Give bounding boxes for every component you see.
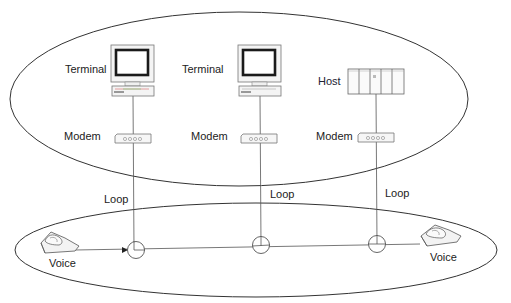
circle-junction-icon xyxy=(252,236,270,254)
connection-line-2 xyxy=(260,95,261,245)
modem-1-label: Modem xyxy=(64,131,101,142)
modem-icon xyxy=(241,134,277,143)
modem-icon xyxy=(358,133,394,142)
circle-junction-icon xyxy=(128,241,146,259)
loop-2-label: Loop xyxy=(270,189,294,200)
connection-line-3 xyxy=(376,94,377,244)
voice-left-label: Voice xyxy=(49,258,76,269)
circle-junction-icon xyxy=(368,235,386,253)
connection-line-1 xyxy=(133,95,134,250)
host-label: Host xyxy=(318,76,341,87)
monitor-icon xyxy=(238,45,281,96)
telephone-icon xyxy=(41,232,79,253)
upper-network-ellipse xyxy=(10,12,468,186)
terminal-2-label: Terminal xyxy=(182,64,224,75)
loop-1-label: Loop xyxy=(104,194,128,205)
modem-2-label: Modem xyxy=(191,131,228,142)
modem-icon xyxy=(115,134,151,143)
server-rack-icon xyxy=(348,69,404,94)
terminal-1-label: Terminal xyxy=(65,64,107,75)
loop-3-label: Loop xyxy=(385,188,409,199)
monitor-icon xyxy=(111,45,154,96)
telephone-icon xyxy=(421,225,461,246)
voice-right-label: Voice xyxy=(430,252,457,263)
modem-3-label: Modem xyxy=(316,131,353,142)
